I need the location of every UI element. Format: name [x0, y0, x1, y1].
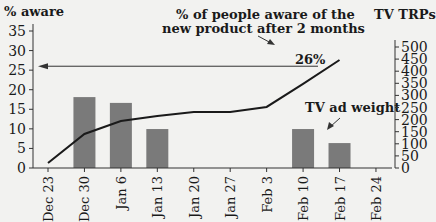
left-tick-label: 30 [8, 43, 26, 59]
x-tick-label: Dec 23 [41, 176, 56, 222]
x-tick-label: Dec 30 [77, 176, 92, 222]
x-tick-label: Jan 20 [187, 176, 202, 220]
bar-1 [73, 97, 95, 168]
bar-7 [292, 129, 314, 168]
right-tick-label: 500 [401, 39, 428, 55]
left-tick-label: 5 [17, 140, 26, 156]
left-tick-label: 25 [8, 62, 26, 78]
x-tick-label: Jan 6 [114, 176, 129, 212]
bar-3 [146, 129, 168, 168]
x-tick-label: Jan 13 [150, 176, 165, 220]
bar-2 [110, 103, 132, 168]
left-tick-label: 20 [8, 82, 26, 98]
x-tick-label: Feb 10 [296, 176, 311, 221]
left-tick-label: 10 [8, 121, 26, 137]
left-tick-label: 15 [8, 101, 26, 117]
x-tick-label: Feb 17 [333, 176, 348, 221]
arrow-down-left-icon [327, 122, 334, 130]
arrow-down-right-icon [267, 39, 275, 45]
arrow-left-icon [38, 63, 48, 69]
x-tick-label: Feb 24 [369, 176, 384, 221]
bar-8 [329, 143, 351, 168]
x-tick-label: Jan 27 [223, 176, 238, 220]
left-tick-label: 35 [8, 23, 26, 39]
left-tick-label: 0 [17, 160, 26, 176]
x-tick-label: Feb 3 [260, 176, 275, 213]
